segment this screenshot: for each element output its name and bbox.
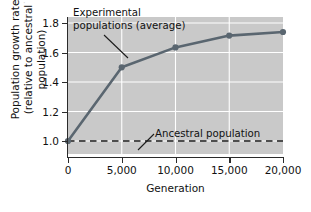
y-axis-title-line-1: Population growth rate — [9, 0, 22, 140]
data-point-gen-5000 — [119, 64, 125, 70]
y-axis-title: Population growth rate (relative to ance… — [9, 0, 48, 140]
data-point-gen-15000 — [226, 33, 232, 39]
y-tick-mark-1.2 — [62, 112, 67, 113]
x-tick-label-10000: 10,000 — [146, 165, 206, 175]
x-tick-label-20000: 20,000 — [253, 165, 311, 175]
annotation-experimental-line-1: Experimental — [73, 7, 198, 20]
y-axis-line — [67, 17, 68, 157]
x-tick-label-0: 0 — [38, 165, 98, 175]
y-tick-mark-1.8 — [62, 23, 67, 24]
annotation-ancestral-population: Ancestral population — [155, 128, 260, 140]
x-tick-mark-5000 — [122, 158, 123, 163]
x-tick-mark-15000 — [229, 158, 230, 163]
x-tick-mark-10000 — [176, 158, 177, 163]
chart-figure: · · — [0, 0, 311, 212]
y-tick-mark-1.4 — [62, 82, 67, 83]
data-point-gen-10000 — [172, 44, 178, 50]
x-axis-title: Generation — [68, 182, 283, 194]
annotation-experimental-line-2: populations (average) — [73, 20, 198, 33]
y-axis-title-line-2: (relative to ancestral population) — [22, 0, 48, 140]
data-point-gen-20000 — [280, 29, 286, 35]
y-tick-mark-1.6 — [62, 53, 67, 54]
x-tick-mark-0 — [68, 158, 69, 163]
x-tick-label-15000: 15,000 — [199, 165, 259, 175]
annotation-experimental-populations: Experimental populations (average) — [73, 7, 198, 32]
x-tick-label-5000: 5,000 — [92, 165, 152, 175]
y-tick-mark-1.0 — [62, 141, 67, 142]
x-tick-mark-20000 — [283, 158, 284, 163]
